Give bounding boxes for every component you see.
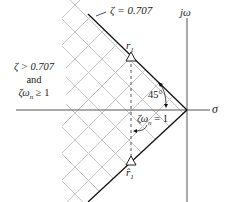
angle-arrow-bottom	[164, 104, 168, 108]
jw-axis-label: jω	[180, 7, 191, 18]
boundary-label: ζωn = 1	[137, 114, 168, 127]
sigma-axis-label: σ	[212, 103, 218, 115]
boundary-leader-arrow	[133, 129, 137, 133]
damping-line-label: ζ = 0.707	[110, 5, 152, 16]
pole-r1hat-marker	[126, 156, 136, 165]
region-label-rest: ≥ 1	[33, 87, 49, 98]
region-label-zeta-wn: ζω	[19, 87, 30, 98]
pole-r1-label: r1	[126, 40, 134, 54]
boundary-label-suffix: = 1	[152, 113, 168, 124]
damping-label-leader	[96, 12, 106, 16]
angle-label: 45°	[148, 90, 163, 101]
boundary-label-prefix: ζω	[137, 113, 148, 124]
pole-r1hat-label: r̂1	[126, 167, 134, 181]
region-label: ζ > 0.707 and ζωn ≥ 1	[2, 60, 66, 104]
region-label-line3: ζωn ≥ 1	[2, 86, 66, 104]
pole-r1-sub: 1	[130, 46, 134, 54]
damping-line-upper	[88, 14, 187, 110]
pole-r1hat-sub: 1	[130, 173, 134, 181]
region-label-line2: and	[2, 73, 66, 86]
region-label-line1: ζ > 0.707	[2, 60, 66, 73]
